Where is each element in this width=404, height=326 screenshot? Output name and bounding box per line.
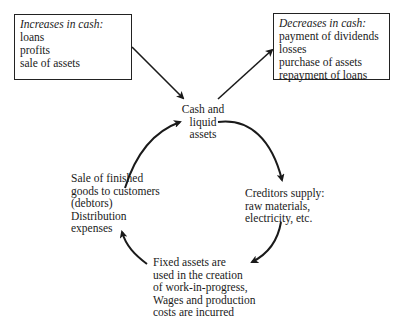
decreases-item: purchase of assets (279, 56, 384, 69)
sales-line: goods to customers (71, 185, 160, 198)
increases-item: loans (20, 31, 126, 44)
sales-line: expenses (71, 222, 160, 235)
creditors-line: electricity, etc. (245, 212, 325, 225)
sale-of-finished-goods-node: Sale of finished goods to customers (deb… (71, 172, 160, 235)
sales-line: (debtors) (71, 197, 160, 210)
sales-line: Sale of finished (71, 172, 160, 185)
cash-line: assets (168, 128, 238, 141)
arrow-fixed-assets-to-sales (122, 232, 147, 264)
fixed-assets-line: used in the creation (153, 269, 256, 282)
cash-line: liquid (168, 116, 238, 129)
increases-title: Increases in cash: (20, 18, 126, 31)
increases-item: sale of assets (20, 57, 126, 70)
arrow-increases-to-cash (132, 47, 183, 98)
fixed-assets-line: Wages and production (153, 294, 256, 307)
decreases-title: Decreases in cash: (279, 17, 384, 30)
decreases-item: repayment of loans (279, 69, 384, 82)
cash-and-liquid-assets-node: Cash and liquid assets (168, 103, 238, 141)
fixed-assets-line: of work-in-progress, (153, 281, 256, 294)
creditors-supply-node: Creditors supply: raw materials, electri… (245, 187, 325, 225)
arrow-creditors-to-fixed-assets (252, 222, 281, 262)
decreases-item: losses (279, 43, 384, 56)
fixed-assets-line: Fixed assets are (153, 256, 256, 269)
decreases-in-cash-box: Decreases in cash: payment of dividends … (273, 13, 390, 80)
fixed-assets-line: costs are incurred (153, 306, 256, 319)
creditors-line: raw materials, (245, 200, 325, 213)
decreases-item: payment of dividends (279, 30, 384, 43)
fixed-assets-node: Fixed assets are used in the creation of… (153, 256, 256, 319)
sales-line: Distribution (71, 210, 160, 223)
increases-item: profits (20, 44, 126, 57)
increases-in-cash-box: Increases in cash: loans profits sale of… (14, 14, 132, 80)
arrow-cash-to-decreases (218, 50, 272, 99)
cash-line: Cash and (168, 103, 238, 116)
creditors-line: Creditors supply: (245, 187, 325, 200)
